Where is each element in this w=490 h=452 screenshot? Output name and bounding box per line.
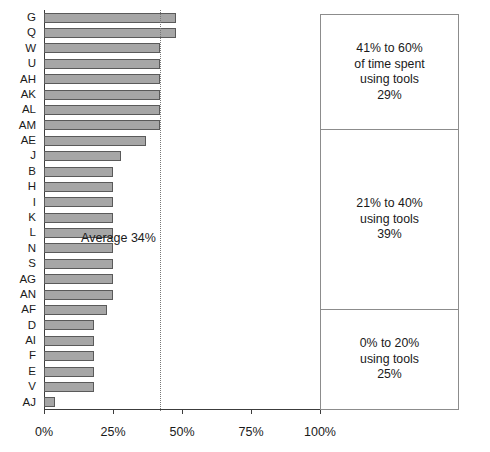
summary-box-0-20-text: 0% to 20% using tools 25% (360, 336, 419, 383)
category-label-L: L (0, 225, 40, 240)
bar-row (44, 287, 320, 302)
category-label-U: U (0, 56, 40, 71)
bar-AI (44, 336, 94, 346)
bar-row (44, 118, 320, 133)
bar-AL (44, 105, 160, 115)
bar-D (44, 320, 94, 330)
category-label-I: I (0, 195, 40, 210)
bar-row (44, 348, 320, 363)
bar-H (44, 182, 113, 192)
category-label-S: S (0, 256, 40, 271)
bar-row (44, 379, 320, 394)
category-label-V: V (0, 379, 40, 394)
category-label-B: B (0, 164, 40, 179)
category-label-G: G (0, 10, 40, 25)
category-label-AI: AI (0, 333, 40, 348)
category-label-AN: AN (0, 287, 40, 302)
bar-AJ (44, 397, 55, 407)
summary-box-21-40-text: 21% to 40% using tools 39% (356, 196, 422, 243)
bar-Q (44, 28, 176, 38)
average-line-label: Average 34% (81, 231, 160, 245)
bar-row (44, 333, 320, 348)
category-label-AM: AM (0, 118, 40, 133)
bar-row (44, 395, 320, 410)
x-tick-mark-50% (182, 409, 183, 414)
x-tick-label-100%: 100% (304, 425, 336, 439)
bar-row (44, 133, 320, 148)
bar-J (44, 151, 121, 161)
x-tick-mark-0% (44, 409, 45, 414)
x-tick-label-75%: 75% (238, 425, 263, 439)
category-label-E: E (0, 364, 40, 379)
bar-row (44, 302, 320, 317)
summary-box-41-60: 41% to 60% of time spent using tools 29% (321, 15, 458, 129)
x-tick-mark-25% (113, 409, 114, 414)
x-tick-label-25%: 25% (100, 425, 125, 439)
category-label-K: K (0, 210, 40, 225)
bar-row (44, 364, 320, 379)
bar-E (44, 367, 94, 377)
summary-box-41-60-text: 41% to 60% of time spent using tools 29% (354, 41, 424, 103)
bar-row (44, 318, 320, 333)
bar-AF (44, 305, 107, 315)
bar-G (44, 13, 176, 23)
category-label-AK: AK (0, 87, 40, 102)
category-label-D: D (0, 318, 40, 333)
bar-row (44, 87, 320, 102)
bar-AN (44, 290, 113, 300)
x-tick-label-0%: 0% (35, 425, 53, 439)
category-label-AG: AG (0, 272, 40, 287)
bar-row (44, 25, 320, 40)
bar-row (44, 256, 320, 271)
bar-F (44, 351, 94, 361)
summary-box-group: 41% to 60% of time spent using tools 29%… (320, 14, 459, 410)
bar-row (44, 41, 320, 56)
bar-row (44, 148, 320, 163)
category-label-AF: AF (0, 302, 40, 317)
category-label-J: J (0, 148, 40, 163)
bar-AE (44, 136, 146, 146)
category-label-AJ: AJ (0, 395, 40, 410)
bar-AK (44, 90, 160, 100)
bar-AH (44, 74, 160, 84)
bar-row (44, 10, 320, 25)
category-label-AE: AE (0, 133, 40, 148)
category-label-AH: AH (0, 72, 40, 87)
category-label-H: H (0, 179, 40, 194)
category-label-W: W (0, 41, 40, 56)
category-axis-labels: GQWUAHAKALAMAEJBHIKLNSAGANAFDAIFEVAJ (0, 10, 40, 410)
summary-box-0-20: 0% to 20% using tools 25% (321, 309, 458, 409)
bar-row (44, 210, 320, 225)
category-label-AL: AL (0, 102, 40, 117)
bar-rows (44, 10, 320, 410)
bar-chart: GQWUAHAKALAMAEJBHIKLNSAGANAFDAIFEVAJ Ave… (0, 0, 490, 452)
bar-AG (44, 274, 113, 284)
bar-row (44, 72, 320, 87)
bar-AM (44, 120, 160, 130)
bar-row (44, 179, 320, 194)
bar-V (44, 382, 94, 392)
bar-U (44, 59, 160, 69)
bar-K (44, 213, 113, 223)
category-label-F: F (0, 348, 40, 363)
bar-row (44, 164, 320, 179)
average-line (160, 10, 161, 411)
x-tick-label-50%: 50% (169, 425, 194, 439)
category-label-Q: Q (0, 25, 40, 40)
bar-row (44, 102, 320, 117)
bar-row (44, 56, 320, 71)
plot-area (44, 10, 320, 410)
bar-S (44, 259, 113, 269)
bar-row (44, 272, 320, 287)
bar-B (44, 167, 113, 177)
category-label-N: N (0, 241, 40, 256)
summary-box-21-40: 21% to 40% using tools 39% (321, 129, 458, 309)
bar-row (44, 195, 320, 210)
bar-W (44, 43, 160, 53)
bar-I (44, 197, 113, 207)
x-tick-mark-75% (251, 409, 252, 414)
